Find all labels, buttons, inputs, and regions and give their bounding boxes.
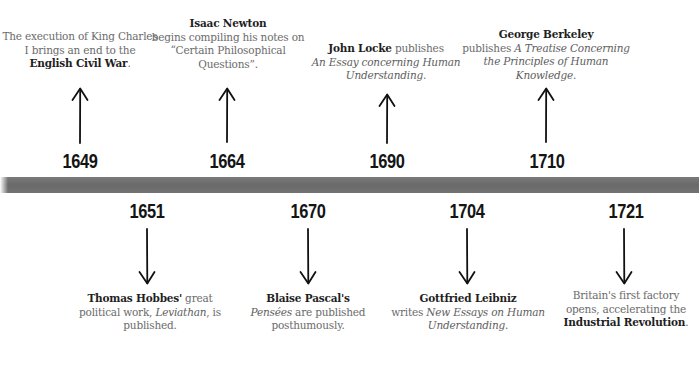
year-label-1721: 1721 [593,200,659,222]
arrow-down-icon [614,228,634,286]
timeline-bar [0,177,699,193]
event-highlight: Industrial Revolution [564,316,686,328]
event-highlight: John Locke [328,42,392,54]
event-work-title: Pensées [251,306,292,318]
event-text: . [423,69,426,81]
year-label-1670: 1670 [275,200,341,222]
event-text: publishes [462,42,514,54]
event-work-title: Leviathan [155,306,206,318]
event-highlight: English Civil War [29,57,127,69]
year-label-1649: 1649 [47,150,113,172]
event-text: writes [391,306,426,318]
event-text: publishes [392,42,444,54]
event-1664-description: Isaac Newton begins compiling his notes … [150,17,306,71]
event-1649-description: The execution of King Charles I brings a… [2,30,158,71]
event-work-title: An Essay concerning Human Understanding [312,56,461,82]
event-text: . [685,316,688,328]
event-work-title: New Essays on Human Understanding [426,306,545,332]
event-text: . [505,319,508,331]
event-1710-description: George Berkeley publishes A Treatise Con… [462,28,630,82]
event-highlight: Blaise Pascal's [266,292,350,304]
event-text: begins compiling his notes on “Certain P… [152,31,305,70]
event-text: Britain's first factory opens, accelerat… [566,289,686,315]
arrow-down-icon [457,228,477,286]
year-label-1651: 1651 [114,200,180,222]
event-highlight: George Berkeley [499,28,594,40]
event-highlight: Thomas Hobbes' [87,292,182,304]
event-1690-description: John Locke publishes An Essay concerning… [306,42,466,83]
event-1721-description: Britain's first factory opens, accelerat… [562,289,690,330]
event-1651-description: Thomas Hobbes' great political work, Lev… [70,292,230,333]
event-1670-description: Blaise Pascal's Pensées are published po… [233,292,383,333]
arrow-up-icon [217,86,237,144]
event-1704-description: Gottfried Leibniz writes New Essays on H… [388,292,548,333]
event-text: . [127,57,130,69]
event-text: . [573,69,576,81]
arrow-up-icon [536,86,556,144]
event-highlight: Isaac Newton [190,17,267,29]
year-label-1664: 1664 [194,150,260,172]
event-text: The execution of King Charles I brings a… [2,30,157,56]
year-label-1690: 1690 [354,150,420,172]
arrow-up-icon [377,92,397,144]
arrow-down-icon [298,228,318,286]
arrow-down-icon [137,228,157,286]
year-label-1710: 1710 [514,150,580,172]
event-highlight: Gottfried Leibniz [420,292,517,304]
year-label-1704: 1704 [434,200,500,222]
arrow-up-icon [70,86,90,144]
